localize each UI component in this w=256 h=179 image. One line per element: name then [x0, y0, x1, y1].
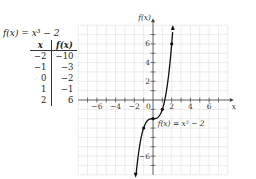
y-tick-label: 4 [145, 58, 150, 67]
curve-label: f(x) = x³ − 2 [157, 119, 205, 128]
y-tick-label: 2 [145, 77, 150, 86]
x-tick-label: 4 [188, 102, 193, 111]
data-point [170, 42, 173, 45]
x-tick-label: −6 [91, 102, 102, 111]
data-point [161, 108, 164, 111]
x-tick-label: 2 [169, 102, 174, 111]
x-tick-label: −2 [129, 102, 140, 111]
x-tick-label: 6 [207, 102, 212, 111]
x-tick-label: −4 [110, 102, 121, 111]
origin-label: 0 [146, 102, 151, 111]
data-point [151, 117, 154, 120]
graph: −6−4−2246642−60xf(x)f(x) = x³ − 2 [0, 0, 256, 179]
y-tick-label: 6 [145, 39, 150, 48]
data-point [142, 126, 145, 129]
y-axis-label: f(x) [137, 13, 151, 22]
y-tick-label: −6 [139, 152, 150, 161]
x-axis-label: x [232, 102, 237, 111]
